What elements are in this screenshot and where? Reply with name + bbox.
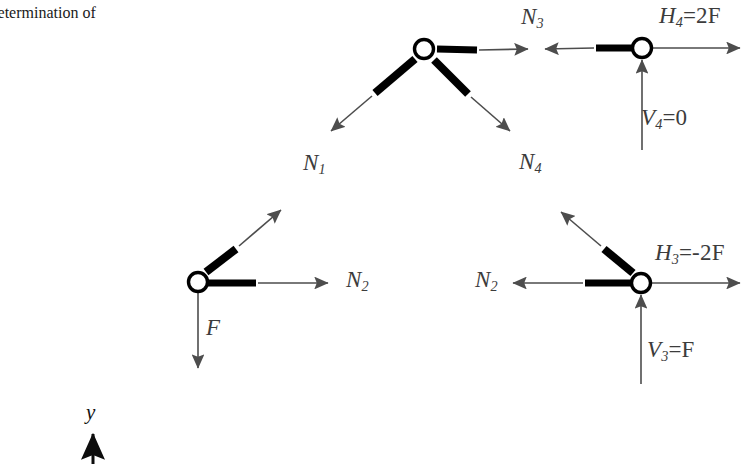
arrow-n1-upright bbox=[239, 210, 281, 246]
label-v3: V3=F bbox=[647, 337, 695, 365]
label-axis-y: y bbox=[86, 400, 96, 425]
node-bottom-left bbox=[189, 273, 208, 292]
stub-bottomright-upleft bbox=[604, 249, 633, 273]
node-apex bbox=[415, 40, 434, 59]
label-n4: N4 bbox=[519, 149, 542, 177]
label-n3: N3 bbox=[521, 4, 544, 32]
label-force-f: F bbox=[206, 315, 220, 341]
arrow-n4-downright bbox=[471, 97, 510, 131]
label-n1: N1 bbox=[303, 150, 326, 178]
diagram-canvas: Determination of es bbox=[0, 0, 754, 464]
label-n2-left: N2 bbox=[346, 267, 369, 295]
stub-bottomleft-upright bbox=[206, 249, 236, 272]
truss-diagram-svg bbox=[0, 0, 754, 464]
stub-apex-right bbox=[437, 49, 477, 50]
arrow-n4-upleft bbox=[561, 212, 601, 246]
force-arrows bbox=[198, 48, 740, 384]
node-top-right bbox=[633, 39, 652, 58]
member-stubs bbox=[206, 48, 633, 283]
stub-apex-downleft bbox=[375, 59, 415, 93]
arrow-n3-right bbox=[479, 49, 528, 50]
label-h3: H3=-2F bbox=[655, 240, 725, 268]
arrow-n1-downleft bbox=[331, 96, 372, 131]
label-h4: H4=2F bbox=[659, 3, 721, 31]
label-v4: V4=0 bbox=[641, 105, 687, 133]
pin-nodes bbox=[189, 39, 652, 293]
stub-apex-downright bbox=[434, 60, 468, 94]
node-bottom-right bbox=[632, 274, 651, 293]
arrow-n3-left bbox=[545, 48, 594, 49]
label-n2-right: N2 bbox=[475, 267, 498, 295]
